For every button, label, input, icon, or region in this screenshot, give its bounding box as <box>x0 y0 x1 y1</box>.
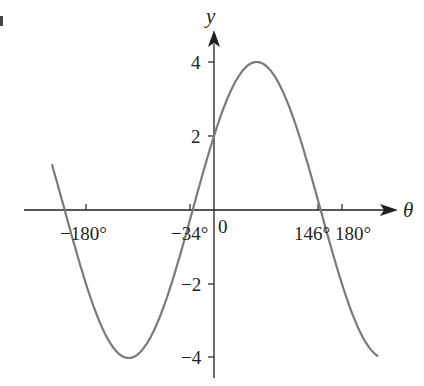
x-axis-label: θ <box>403 198 413 222</box>
origin-label: 0 <box>218 216 228 237</box>
y-tick-label-neg2: −2 <box>181 274 201 295</box>
y-tick-label-neg4: −4 <box>181 347 202 368</box>
y-tick-label-2: 2 <box>191 126 201 147</box>
sine-graph: y θ 0 −180° −34° 146° 180° 4 2 −2 −4 <box>0 0 424 386</box>
y-tick-label-4: 4 <box>191 52 201 73</box>
x-tick-label-146: 146° <box>294 223 330 244</box>
x-tick-label-neg180: −180° <box>60 223 107 244</box>
x-tick-label-neg34: −34° <box>171 223 208 244</box>
y-axis-label: y <box>204 4 216 28</box>
x-tick-label-180: 180° <box>335 223 371 244</box>
